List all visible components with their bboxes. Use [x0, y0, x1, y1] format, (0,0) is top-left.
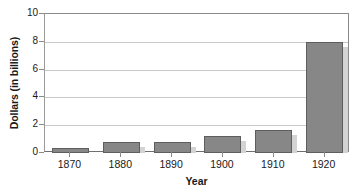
x-axis-tick [171, 152, 172, 157]
y-axis-tick-label: 0 [14, 147, 38, 157]
x-axis-tick-label: 1910 [250, 158, 296, 170]
x-axis-tick-label: 1900 [199, 158, 245, 170]
bar [204, 136, 241, 153]
x-axis-tick [273, 152, 274, 157]
x-axis-tick [120, 152, 121, 157]
x-axis-tick-label: 1870 [46, 158, 92, 170]
y-axis-tick-label: 2 [14, 119, 38, 129]
x-axis-tick [324, 152, 325, 157]
bar [306, 42, 343, 153]
bar [52, 148, 89, 153]
x-axis-tick-label: 1920 [301, 158, 347, 170]
plot-area [44, 13, 349, 152]
bars-layer [45, 14, 348, 151]
y-axis-tick [39, 152, 44, 153]
y-axis-tick-label: 6 [14, 64, 38, 74]
x-axis-tick [222, 152, 223, 157]
y-axis-tick-label: 10 [14, 8, 38, 18]
bar [255, 130, 292, 153]
bar-chart: Dollars (in billions) 0246810 1870188018… [0, 0, 358, 194]
y-axis-tick-label: 8 [14, 36, 38, 46]
x-axis-tick [69, 152, 70, 157]
x-axis-tick-label: 1880 [97, 158, 143, 170]
x-axis-tick-label: 1890 [148, 158, 194, 170]
y-axis-tick-label: 4 [14, 91, 38, 101]
x-axis-title: Year [44, 175, 349, 187]
y-axis-title: Dollars (in billions) [7, 13, 21, 153]
